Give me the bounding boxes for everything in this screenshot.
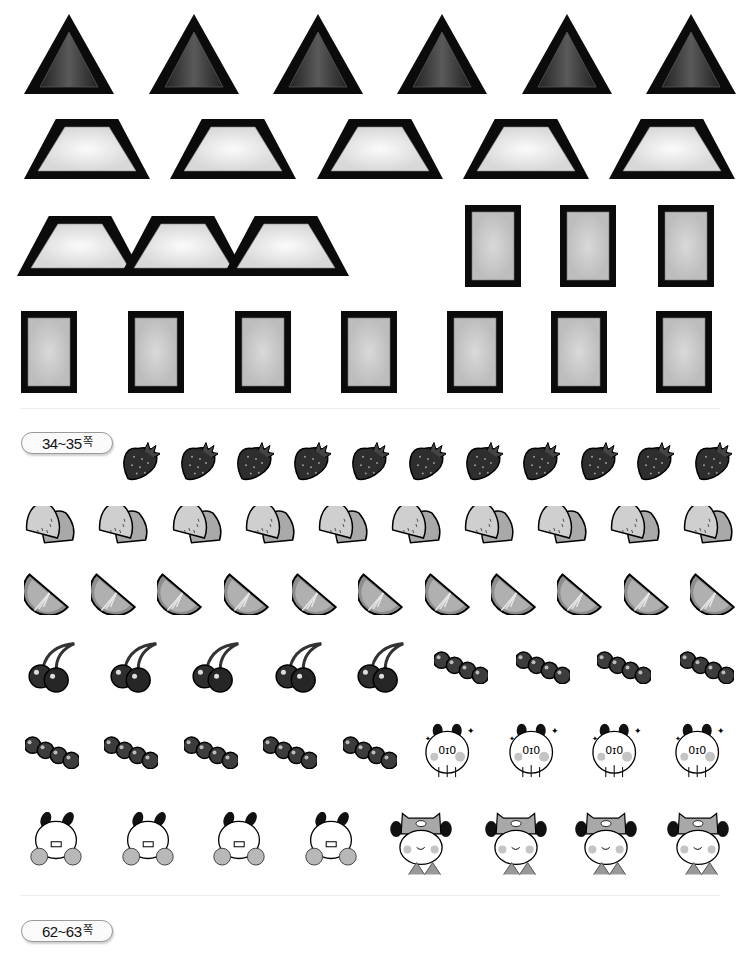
svg-text:0ɪ0: 0ɪ0 [688, 744, 706, 757]
panda-sparkle-sticker: 0ɪ0 ✦ ✦ [422, 722, 478, 780]
strawberry-icon [578, 440, 618, 482]
beads-sticker [597, 650, 651, 684]
kiwi-icon [609, 506, 663, 546]
square-sticker [340, 310, 398, 394]
section-label-text: 62~63 [42, 923, 82, 940]
lime-icon [358, 571, 404, 615]
strawberry-icon [234, 440, 274, 482]
panda-sparkle-icon: 0ɪ0 ✦ ✦ [672, 722, 728, 780]
triangle-sticker [395, 12, 489, 96]
strawberry-icon [463, 440, 503, 482]
beads-icon [343, 735, 397, 769]
kiwi-icon [97, 506, 151, 546]
lime-sticker [425, 571, 471, 615]
beads-icon [680, 650, 734, 684]
panda-hat-sticker [390, 810, 452, 878]
beads-icon [184, 735, 238, 769]
svg-text:✦: ✦ [425, 735, 431, 742]
lime-sticker [557, 571, 603, 615]
strawberry-icon [692, 440, 732, 482]
strawberry-sticker [120, 440, 160, 482]
beads-icon [597, 650, 651, 684]
trapezoid-sticker [461, 117, 591, 181]
panda-hat-sticker [575, 810, 637, 878]
square-icon [446, 310, 504, 394]
lime-icon [292, 571, 338, 615]
strawberry-icon [178, 440, 218, 482]
square-sticker [550, 310, 608, 394]
beads-sticker [104, 735, 158, 769]
kiwi-icon [390, 506, 444, 546]
panda-hat-icon [390, 810, 452, 878]
lime-icon [157, 571, 203, 615]
trapezoid-sticker [22, 117, 152, 181]
square-sticker [234, 310, 292, 394]
strawberry-sticker [520, 440, 560, 482]
kiwi-sticker [390, 506, 444, 546]
beads-sticker [263, 735, 317, 769]
kiwi-icon [171, 506, 225, 546]
square-sticker [464, 204, 522, 288]
panda-hat-sticker [667, 810, 729, 878]
triangle-sticker [520, 12, 614, 96]
trapezoid-icon [461, 117, 591, 181]
beads-sticker [680, 650, 734, 684]
section-label-34-35: 34~35쪽 [21, 432, 113, 454]
svg-text:0ɪ0: 0ɪ0 [438, 744, 456, 757]
cherry-sticker [189, 641, 241, 693]
beads-icon [104, 735, 158, 769]
lime-sticker [358, 571, 404, 615]
trapezoid-icon [607, 117, 737, 181]
strawberry-sticker [578, 440, 618, 482]
square-icon [559, 204, 617, 288]
cherry-sticker [25, 641, 77, 693]
square-sticker [20, 310, 78, 394]
svg-text:✦: ✦ [634, 726, 642, 736]
square-icon [655, 310, 713, 394]
trapezoid-icon [315, 117, 445, 181]
triangle-sticker [271, 12, 365, 96]
faint-cut-line [20, 895, 720, 896]
triangle-icon [520, 12, 614, 96]
section-label-suffix: 쪽 [83, 921, 93, 937]
svg-text:✦: ✦ [551, 726, 559, 736]
lime-icon [690, 571, 736, 615]
panda-cheer-sticker [209, 812, 269, 874]
trapezoid-sticker [315, 117, 445, 181]
cherry-icon [272, 641, 324, 693]
beads-sticker [434, 650, 488, 684]
triangle-sticker [22, 12, 116, 96]
svg-text:✦: ✦ [467, 726, 475, 736]
kiwi-icon [682, 506, 736, 546]
svg-text:✦: ✦ [717, 726, 725, 736]
svg-text:0ɪ0: 0ɪ0 [605, 744, 623, 757]
strawberry-icon [406, 440, 446, 482]
strawberry-sticker [234, 440, 274, 482]
kiwi-icon [244, 506, 298, 546]
cherry-icon [189, 641, 241, 693]
triangle-icon [22, 12, 116, 96]
section-label-62-63: 62~63쪽 [21, 920, 113, 942]
panda-cheer-icon [301, 812, 361, 874]
strawberry-sticker [178, 440, 218, 482]
kiwi-sticker [682, 506, 736, 546]
panda-cheer-icon [209, 812, 269, 874]
triangle-sticker [147, 12, 241, 96]
cherry-icon [354, 641, 406, 693]
panda-sparkle-icon: 0ɪ0 ✦ ✦ [506, 722, 562, 780]
panda-cheer-sticker [301, 812, 361, 874]
kiwi-sticker [463, 506, 517, 546]
lime-sticker [24, 571, 70, 615]
panda-hat-icon [575, 810, 637, 878]
triangle-icon [147, 12, 241, 96]
trapezoid-sticker [168, 117, 298, 181]
strawberry-icon [349, 440, 389, 482]
section-label-text: 34~35 [42, 435, 82, 452]
panda-sparkle-sticker: 0ɪ0 ✦ ✦ [672, 722, 728, 780]
kiwi-sticker [536, 506, 590, 546]
strawberry-icon [120, 440, 160, 482]
beads-icon [434, 650, 488, 684]
strawberry-icon [520, 440, 560, 482]
lime-sticker [157, 571, 203, 615]
svg-text:✦: ✦ [592, 735, 598, 742]
